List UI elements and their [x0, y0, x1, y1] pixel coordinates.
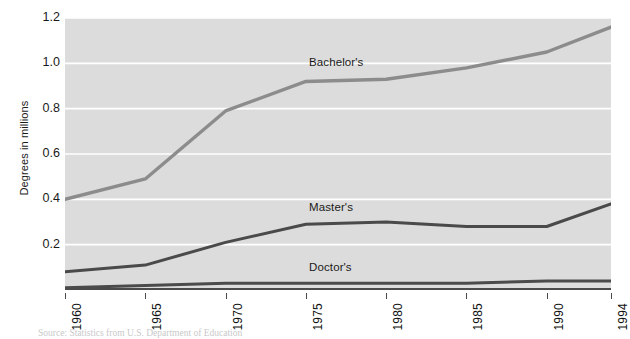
- y-tick-label: 0.4: [26, 192, 60, 205]
- x-tick-label: 1965: [150, 303, 164, 331]
- x-tick-label: 1980: [391, 303, 405, 331]
- x-tick-mark: [466, 293, 467, 299]
- y-tick-label: 1.2: [26, 11, 60, 24]
- series-line-doctors: [65, 281, 611, 288]
- y-tick-label: 0.8: [26, 102, 60, 115]
- x-tick-mark: [611, 293, 612, 299]
- x-tick-mark: [145, 293, 146, 299]
- x-tick-label: 1970: [231, 303, 245, 331]
- series-label-doctors: Doctor's: [309, 261, 352, 273]
- x-tick-label: 1994: [616, 303, 630, 331]
- y-axis-tick-labels: 0.20.40.60.81.01.2: [24, 0, 60, 339]
- series-label-masters: Master's: [309, 201, 353, 213]
- x-tick-label: 1975: [311, 303, 325, 331]
- y-tick-label: 1.0: [26, 56, 60, 69]
- x-tick-mark: [306, 293, 307, 299]
- x-tick-label: 1985: [471, 303, 485, 331]
- x-tick-mark: [547, 293, 548, 299]
- y-tick-label: 0.2: [26, 238, 60, 251]
- source-note: Source: Statistics from U.S. Department …: [38, 328, 242, 338]
- x-tick-mark: [386, 293, 387, 299]
- y-tick-label: 0.6: [26, 147, 60, 160]
- x-tick-mark: [65, 293, 66, 299]
- x-axis-line: [65, 288, 611, 290]
- x-tick-label: 1960: [70, 303, 84, 331]
- x-tick-mark: [226, 293, 227, 299]
- series-line-bachelors: [65, 27, 611, 199]
- x-tick-label: 1990: [552, 303, 566, 331]
- series-label-bachelors: Bachelor's: [309, 56, 363, 68]
